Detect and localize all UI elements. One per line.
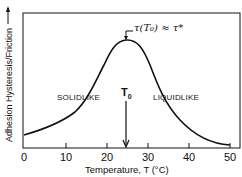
- x-tick-0: 0: [21, 151, 27, 163]
- y-axis-label: Adhesion Hysteresis/Friction: [4, 20, 14, 150]
- t0-label: T0: [121, 86, 132, 100]
- plot-frame: [23, 13, 240, 148]
- y-axis-arrow-icon: [6, 6, 10, 12]
- t0-subscript: 0: [128, 93, 132, 100]
- x-axis-ticks: [66, 143, 230, 148]
- x-tick-50: 50: [224, 151, 236, 163]
- x-tick-10: 10: [60, 151, 72, 163]
- peak-annotation: τ(T₀) ≈ τ*: [134, 22, 183, 33]
- x-tick-20: 20: [101, 151, 113, 163]
- x-tick-40: 40: [183, 151, 195, 163]
- x-tick-30: 30: [142, 151, 154, 163]
- solidlike-label: SOLIDLIKE: [57, 93, 100, 102]
- liquidlike-label: LIQUIDLIKE: [153, 93, 199, 102]
- t0-main: T: [121, 86, 128, 98]
- x-axis-label: Temperature, T (°C): [85, 164, 169, 175]
